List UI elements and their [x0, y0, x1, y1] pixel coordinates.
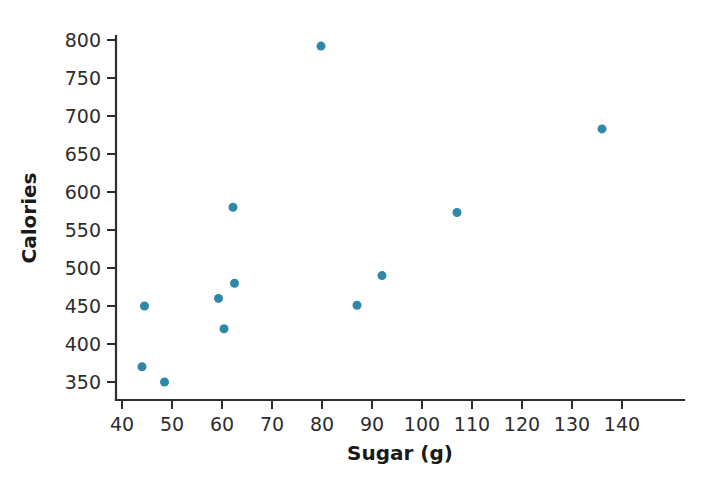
x-axis-tick-labels: 405060708090100110120130140 [110, 413, 640, 435]
x-tick-label: 50 [160, 413, 184, 435]
data-point [140, 302, 149, 311]
y-tick-label: 650 [65, 143, 101, 165]
data-point [453, 208, 462, 217]
y-tick-label: 700 [65, 105, 101, 127]
x-tick-label: 60 [210, 413, 234, 435]
y-tick-label: 550 [65, 219, 101, 241]
plot-area: 350400450500550600650700750800 405060708… [0, 0, 708, 484]
data-point [598, 124, 607, 133]
x-axis-ticks [122, 400, 622, 409]
y-tick-label: 600 [65, 181, 101, 203]
y-tick-label: 750 [65, 67, 101, 89]
data-point-group [138, 42, 607, 387]
x-tick-label: 90 [360, 413, 384, 435]
x-tick-label: 140 [604, 413, 640, 435]
y-axis-title: Calories [17, 173, 41, 264]
y-axis-ticks [107, 40, 116, 382]
x-tick-label: 80 [310, 413, 334, 435]
x-tick-label: 110 [454, 413, 490, 435]
y-tick-label: 800 [65, 29, 101, 51]
y-tick-label: 350 [65, 371, 101, 393]
data-point [317, 42, 326, 51]
y-tick-label: 500 [65, 257, 101, 279]
y-tick-label: 450 [65, 295, 101, 317]
x-axis-title: Sugar (g) [347, 441, 453, 465]
x-tick-label: 120 [504, 413, 540, 435]
data-point [229, 203, 238, 212]
x-tick-label: 100 [404, 413, 440, 435]
x-tick-label: 130 [554, 413, 590, 435]
data-point [138, 362, 147, 371]
data-point [214, 294, 223, 303]
scatter-chart: 350400450500550600650700750800 405060708… [0, 0, 708, 484]
data-point [230, 279, 239, 288]
data-point [378, 271, 387, 280]
y-tick-label: 400 [65, 333, 101, 355]
x-tick-label: 40 [110, 413, 134, 435]
data-point [160, 378, 169, 387]
x-tick-label: 70 [260, 413, 284, 435]
data-point [220, 324, 229, 333]
y-axis-tick-labels: 350400450500550600650700750800 [65, 29, 101, 393]
data-point [353, 301, 362, 310]
